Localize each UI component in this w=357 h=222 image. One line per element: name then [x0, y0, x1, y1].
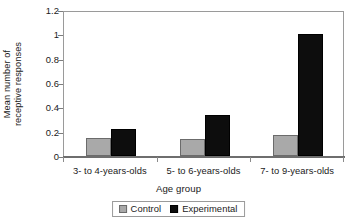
- x-axis-tick-mark: [250, 157, 251, 162]
- bar-control-group-1: [86, 138, 111, 156]
- x-axis-category-label: 7- to 9-years-olds: [242, 165, 352, 176]
- y-axis-title-line-1: Mean number of: [2, 42, 13, 126]
- y-axis-tick-mark: [58, 108, 63, 109]
- legend-item-control[interactable]: Control: [119, 204, 162, 214]
- bars-container: [64, 12, 343, 156]
- bar-experimental-group-3: [298, 34, 323, 156]
- chart-legend: ControlExperimental: [112, 201, 246, 217]
- bar-control-group-2: [180, 139, 205, 156]
- x-axis-tick-mark: [63, 157, 64, 162]
- y-axis-tick-label: 0: [25, 152, 59, 162]
- y-axis-tick-label: 0.4: [25, 103, 59, 113]
- y-axis-tick-mark: [58, 60, 63, 61]
- y-axis-tick-label: 1.2: [25, 6, 59, 16]
- bar-chart: Mean number of receptive responses 00.20…: [0, 0, 357, 222]
- y-axis-title-line-2: receptive responses: [13, 42, 24, 126]
- x-axis-line: [63, 156, 345, 158]
- y-axis-tick-mark: [58, 84, 63, 85]
- y-axis-title: Mean number of receptive responses: [0, 11, 26, 157]
- y-axis-tick-label: 0.6: [25, 79, 59, 89]
- legend-item-experimental[interactable]: Experimental: [170, 204, 237, 214]
- y-axis-tick-label: 1: [25, 30, 59, 40]
- x-axis-tick-mark: [343, 157, 344, 162]
- legend-swatch-control-icon: [119, 205, 127, 213]
- y-axis-tick-mark: [58, 11, 63, 12]
- plot-area: [63, 11, 344, 157]
- y-axis-tick-label: 0.8: [25, 55, 59, 65]
- x-axis-title: Age group: [0, 183, 357, 194]
- y-axis-tick-label: 0.2: [25, 128, 59, 138]
- bar-experimental-group-1: [111, 129, 136, 156]
- x-axis-tick-mark: [157, 157, 158, 162]
- bar-experimental-group-2: [205, 115, 230, 156]
- y-axis-tick-mark: [58, 35, 63, 36]
- bar-control-group-3: [273, 135, 298, 156]
- legend-label: Control: [131, 204, 162, 214]
- legend-swatch-experimental-icon: [170, 205, 178, 213]
- y-axis-tick-mark: [58, 133, 63, 134]
- legend-label: Experimental: [182, 204, 237, 214]
